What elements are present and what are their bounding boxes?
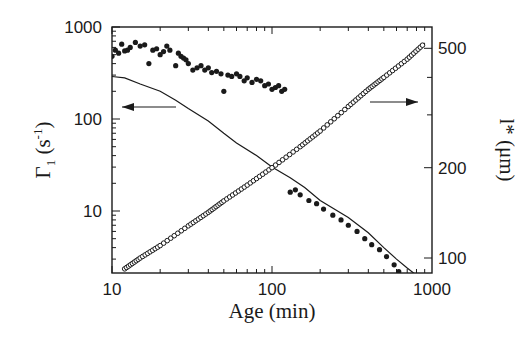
- data-point: [298, 192, 303, 197]
- x-tick-label: 100: [258, 280, 286, 299]
- y-left-axis-title: Γ1 (s-1): [30, 122, 58, 179]
- svg-text:Γ1 (s-1): Γ1 (s-1): [30, 122, 58, 179]
- data-point: [138, 43, 143, 48]
- data-point: [293, 187, 298, 192]
- axis-ticks: [112, 27, 432, 273]
- data-point: [330, 213, 335, 218]
- data-point: [109, 54, 114, 59]
- data-point: [116, 51, 121, 56]
- data-point: [218, 71, 223, 76]
- y-left-tick-label: 1000: [64, 18, 102, 37]
- data-point: [249, 80, 254, 85]
- data-point: [321, 206, 326, 211]
- y-left-tick-label: 100: [74, 110, 102, 129]
- right-arrow-icon: [370, 98, 418, 106]
- data-point: [377, 247, 382, 252]
- data-point: [384, 254, 389, 259]
- data-point: [314, 201, 319, 206]
- axis-arrows: [122, 98, 418, 111]
- data-point: [119, 42, 124, 47]
- data-point: [282, 87, 287, 92]
- data-point: [186, 61, 191, 66]
- data-point: [288, 190, 293, 195]
- data-point: [258, 78, 263, 83]
- data-point: [362, 236, 367, 241]
- data-point: [338, 217, 343, 222]
- data-point: [167, 48, 172, 53]
- y-right-tick-label: 100: [438, 249, 466, 268]
- y-right-tick-label: 500: [438, 39, 466, 58]
- data-point: [354, 229, 359, 234]
- plot-frame: [112, 27, 432, 273]
- data-point: [306, 198, 311, 203]
- x-tick-label: 1000: [413, 280, 451, 299]
- data-point: [209, 70, 214, 75]
- data-point: [276, 83, 281, 88]
- data-point: [133, 40, 138, 45]
- data-point: [198, 63, 203, 68]
- data-point: [154, 46, 159, 51]
- data-point: [161, 49, 166, 54]
- data-point: [266, 81, 271, 86]
- chart: 101001000101001000100200500 Age (min) Γ1…: [0, 0, 523, 338]
- left-arrow-icon: [122, 103, 176, 111]
- data-point: [229, 74, 234, 79]
- data-point: [206, 65, 211, 70]
- data-point: [346, 223, 351, 228]
- svg-text:l* (μm): l* (μm): [495, 118, 519, 181]
- data-point: [146, 61, 151, 66]
- y-left-tick-label: 10: [83, 202, 102, 221]
- lstar-fit-line: [125, 43, 425, 269]
- data-series: [109, 40, 424, 275]
- data-point: [128, 45, 133, 50]
- x-axis-title: Age (min): [229, 299, 316, 323]
- data-point: [221, 89, 226, 94]
- y-right-axis-title: l* (μm): [495, 118, 519, 181]
- x-tick-label: 10: [103, 280, 122, 299]
- data-point: [173, 63, 178, 68]
- data-point: [392, 262, 397, 267]
- data-point: [142, 42, 147, 47]
- y-right-tick-label: 200: [438, 159, 466, 178]
- data-point: [245, 75, 250, 80]
- data-point: [237, 74, 242, 79]
- data-point: [214, 69, 219, 74]
- data-point: [369, 242, 374, 247]
